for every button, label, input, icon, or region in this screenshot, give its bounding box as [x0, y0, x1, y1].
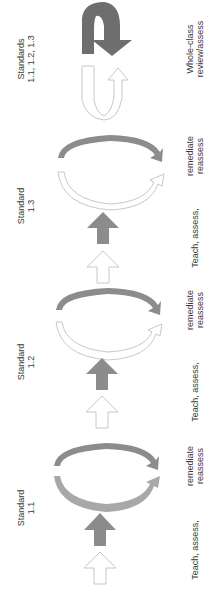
stage-1-1-cycle: [54, 443, 160, 512]
standard-1-3-label: Standard 1.3: [16, 176, 36, 236]
hollow-up-arrow-1-2: [86, 396, 118, 428]
standard-1-2-label: Standard 1.2: [16, 332, 36, 392]
review-action-label: Whole-class review/assess: [185, 4, 205, 94]
cycle-1-2-top-arc: [56, 288, 161, 315]
cycle-1-2-label: remediate reassess: [185, 280, 205, 340]
cycle-1-3-top-arc: [58, 135, 163, 162]
review-hollow-u-arrow: [82, 66, 128, 120]
cycle-1-3-bottom-arc-hollow: [58, 172, 164, 210]
hollow-up-arrow-1-3: [87, 251, 119, 283]
filled-up-arrow-1-3: [87, 212, 119, 244]
stage-1-3-cycle: [58, 135, 164, 210]
review-loop: [82, 2, 132, 120]
action-1-3-label: Teach, assess,: [190, 198, 200, 278]
action-1-1-label: Teach, assess,: [190, 510, 200, 590]
hollow-up-arrow-1-1: [84, 552, 116, 584]
filled-up-arrow-1-1: [84, 513, 116, 546]
review-standards-label: Standards 1.1, 1.2, 1.3: [16, 14, 36, 104]
cycle-1-1-label: remediate reassess: [185, 436, 205, 496]
cycle-1-3-label: remediate reassess: [185, 126, 205, 186]
filled-up-arrow-1-2: [86, 358, 118, 390]
review-dark-curved-arrow: [82, 2, 132, 56]
action-1-2-label: Teach, assess,: [190, 352, 200, 432]
cycle-1-1-top-arc: [54, 443, 159, 470]
cycle-1-2-bottom-arc-hollow: [56, 322, 162, 360]
standard-1-1-label: Standard 1.1: [16, 478, 36, 538]
cycle-1-1-bottom-arc: [54, 476, 160, 512]
stage-1-2-cycle: [56, 288, 162, 360]
